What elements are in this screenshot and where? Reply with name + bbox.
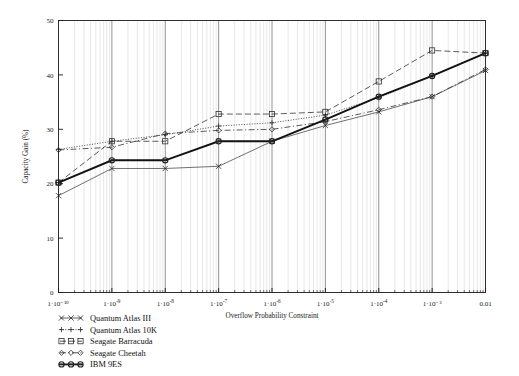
y-tick-label: 10 [47, 235, 55, 243]
legend-label: Quantum Atlas 10K [90, 326, 157, 335]
y-tick-label: 30 [47, 126, 55, 134]
y-tick-label: 20 [47, 180, 55, 188]
x-tick-label: 0.01 [479, 300, 492, 308]
legend-label: IBM 9ES [90, 360, 122, 369]
legend-label: Seagate Cheetah [90, 349, 146, 358]
x-tick-label: 1·10⁻³ [423, 300, 442, 308]
chart-background [0, 0, 519, 376]
chart-figure: 01020304050 1·10⁻¹⁰1·10-91·10-81·10-71·1… [0, 0, 519, 376]
y-axis-label: Capacity Gain (%) [22, 129, 30, 183]
x-tick-labels: 1·10⁻¹⁰1·10-91·10-81·10-71·10-61·10-51·1… [48, 298, 493, 308]
y-tick-label: 40 [47, 72, 55, 80]
legend-label: Quantum Atlas III [90, 314, 151, 323]
y-tick-label: 50 [47, 17, 55, 25]
x-axis-label: Overflow Probability Constraint [225, 312, 318, 320]
y-tick-label: 0 [50, 289, 54, 297]
capacity-gain-line-chart: 01020304050 1·10⁻¹⁰1·10-91·10-81·10-71·1… [0, 0, 519, 376]
legend-label: Seagate Barracuda [90, 337, 153, 346]
x-tick-label: 1·10⁻¹⁰ [48, 300, 70, 308]
